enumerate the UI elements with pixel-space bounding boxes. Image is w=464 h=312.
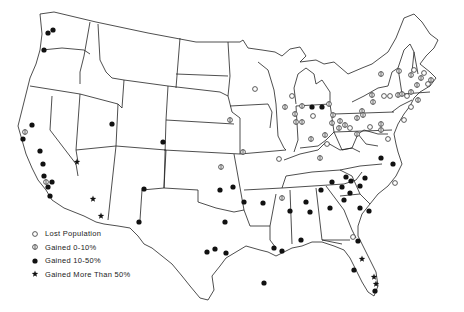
filled-circle-icon — [348, 178, 353, 183]
barred-circle-icon — [331, 113, 336, 118]
filled-circle-icon — [32, 258, 37, 263]
barred-circle-icon — [337, 126, 342, 131]
filled-circle-icon — [307, 209, 312, 214]
filled-circle-icon — [41, 47, 46, 52]
star-icon — [32, 271, 38, 277]
filled-circle-icon — [260, 200, 265, 205]
filled-circle-icon — [319, 104, 324, 109]
legend-label: Gained 10-50% — [45, 256, 101, 265]
barred-circle-icon — [280, 196, 285, 201]
open-circle-icon — [402, 118, 407, 123]
star-icon — [30, 269, 40, 279]
barred-circle-icon — [30, 242, 40, 252]
barred-circle-icon — [33, 245, 38, 250]
barred-circle-icon — [409, 90, 414, 95]
filled-circle-icon — [230, 184, 235, 189]
barred-circle-icon — [23, 130, 28, 135]
filled-circle-icon — [357, 205, 362, 210]
open-circle-icon — [388, 94, 393, 99]
barred-circle-icon — [409, 73, 414, 78]
barred-circle-icon — [44, 180, 49, 185]
filled-circle-icon — [37, 148, 42, 153]
filled-circle-icon — [212, 246, 217, 251]
open-circle-icon — [393, 181, 398, 186]
filled-circle-icon — [20, 136, 25, 141]
open-circle-icon — [422, 71, 427, 76]
barred-circle-icon — [300, 104, 305, 109]
open-circle-icon — [386, 137, 391, 142]
open-circle-icon — [382, 94, 387, 99]
star-icon — [74, 159, 80, 165]
barred-circle-icon — [370, 93, 375, 98]
filled-circle-icon — [271, 245, 276, 250]
barred-circle-icon — [294, 120, 299, 125]
legend-label: Gained More Than 50% — [45, 270, 131, 279]
filled-circle-icon — [318, 187, 323, 192]
filled-circle-icon — [362, 175, 367, 180]
filled-circle-icon — [141, 186, 146, 191]
open-circle-icon — [277, 157, 282, 162]
legend: Lost Population Gained 0-10% Gained 10-5… — [30, 227, 131, 281]
open-circle-icon — [409, 105, 414, 110]
barred-circle-icon — [355, 116, 360, 121]
legend-item-lost: Lost Population — [30, 227, 131, 241]
open-circle-icon — [253, 87, 258, 92]
filled-circle-icon — [222, 219, 227, 224]
filled-circle-icon — [29, 122, 34, 127]
filled-circle-icon — [47, 193, 52, 198]
legend-item-gained-over-50: Gained More Than 50% — [30, 268, 131, 282]
filled-circle-icon — [347, 190, 352, 195]
filled-circle-icon — [287, 208, 292, 213]
filled-circle-icon — [217, 187, 222, 192]
star-icon — [90, 196, 96, 202]
star-icon — [98, 213, 104, 219]
filled-circle-icon — [109, 121, 114, 126]
barred-circle-icon — [379, 128, 384, 133]
legend-item-gained-0-10: Gained 0-10% — [30, 241, 131, 255]
barred-circle-icon — [416, 98, 421, 103]
barred-circle-icon — [293, 112, 298, 117]
filled-circle-icon — [355, 238, 360, 243]
barred-circle-icon — [343, 123, 348, 128]
filled-circle-icon — [223, 250, 228, 255]
barred-circle-icon — [228, 118, 233, 123]
filled-circle-icon — [49, 179, 54, 184]
open-circle-icon — [325, 142, 330, 147]
barred-circle-icon — [355, 132, 360, 137]
barred-circle-icon — [318, 156, 323, 161]
barred-circle-icon — [241, 150, 246, 155]
open-circle-icon — [412, 68, 417, 73]
filled-circle-icon — [298, 237, 303, 242]
open-circle-icon — [348, 126, 353, 131]
filled-circle-icon — [204, 249, 209, 254]
filled-circle-icon — [351, 267, 356, 272]
legend-label: Lost Population — [45, 229, 101, 238]
barred-circle-icon — [309, 137, 314, 142]
filled-circle-icon — [366, 208, 371, 213]
barred-circle-icon — [419, 76, 424, 81]
filled-circle-icon — [261, 280, 266, 285]
barred-circle-icon — [397, 69, 402, 74]
filled-circle-icon — [341, 197, 346, 202]
filled-circle-icon — [378, 155, 383, 160]
filled-circle-icon — [339, 184, 344, 189]
open-circle-icon — [351, 235, 356, 240]
open-circle-icon — [405, 94, 410, 99]
filled-circle-icon — [45, 30, 50, 35]
barred-circle-icon — [400, 92, 405, 97]
barred-circle-icon — [379, 122, 384, 127]
filled-circle-icon — [41, 173, 46, 178]
barred-circle-icon — [371, 100, 376, 105]
filled-circle-icon — [390, 161, 395, 166]
barred-circle-icon — [429, 78, 434, 83]
barred-circle-icon — [219, 165, 224, 170]
filled-circle-icon — [50, 27, 55, 32]
legend-item-gained-10-50: Gained 10-50% — [30, 254, 131, 268]
filled-circle-icon — [303, 199, 308, 204]
barred-circle-icon — [330, 121, 335, 126]
filled-circle-icon — [372, 288, 377, 293]
filled-circle-icon — [160, 139, 165, 144]
barred-circle-icon — [283, 105, 288, 110]
open-circle-icon — [368, 125, 373, 130]
filled-circle-icon — [309, 104, 314, 109]
